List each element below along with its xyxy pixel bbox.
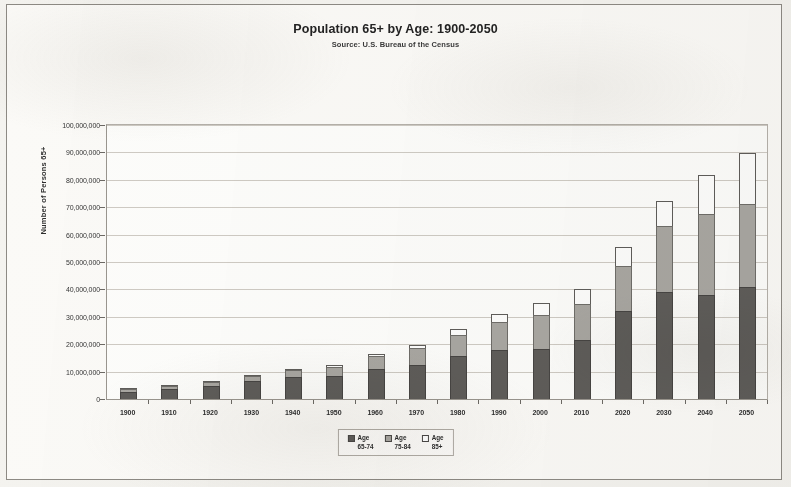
x-tick-label: 1960	[368, 409, 383, 416]
y-tick-label: 70,000,000	[22, 204, 100, 211]
x-tick-label: 2000	[533, 409, 548, 416]
x-tick-mark	[561, 400, 562, 404]
y-tick-label: 20,000,000	[22, 341, 100, 348]
bar-segment-age-75-84	[698, 214, 715, 295]
y-tick-label: 60,000,000	[22, 231, 100, 238]
bar-segment-age-75-84	[656, 226, 673, 293]
plot-area	[106, 124, 768, 400]
bar-segment-age-75-84	[533, 315, 550, 349]
legend-swatch-icon	[422, 435, 429, 442]
x-tick-mark	[726, 400, 727, 404]
bar-segment-age-75-84	[739, 204, 756, 286]
x-tick-label: 1910	[161, 409, 176, 416]
bar-segment-age-65-74	[285, 377, 302, 399]
bar-segment-age-65-74	[120, 392, 137, 399]
bar-segment-age-85	[533, 303, 550, 315]
x-tick-mark	[190, 400, 191, 404]
stacked-bar	[698, 175, 715, 399]
bar-segment-age-65-74	[409, 365, 426, 399]
x-tick-label: 2040	[698, 409, 713, 416]
stacked-bar	[285, 369, 302, 399]
x-tick-label: 1900	[120, 409, 135, 416]
x-tick-label: 2050	[739, 409, 754, 416]
x-tick-label: 1970	[409, 409, 424, 416]
bars-layer	[107, 125, 767, 399]
x-tick-mark	[272, 400, 273, 404]
bar-segment-age-75-84	[326, 367, 343, 376]
legend-label: Age65-74	[357, 434, 373, 451]
x-tick-mark	[643, 400, 644, 404]
x-tick-label: 1930	[244, 409, 259, 416]
bar-segment-age-85	[739, 153, 756, 205]
chart-legend: Age65-74Age75-84Age85+	[337, 429, 453, 456]
bar-segment-age-75-84	[491, 322, 508, 349]
y-tick-mark	[100, 262, 105, 263]
x-tick-label: 1950	[326, 409, 341, 416]
legend-item: Age75-84	[385, 434, 411, 451]
legend-swatch-icon	[347, 435, 354, 442]
population-chart: Population 65+ by Age: 1900-2050 Source:…	[0, 0, 791, 487]
y-tick-label: 10,000,000	[22, 368, 100, 375]
bar-segment-age-65-74	[533, 349, 550, 399]
y-tick-mark	[100, 235, 105, 236]
stacked-bar	[615, 247, 632, 399]
y-tick-label: 50,000,000	[22, 259, 100, 266]
bar-segment-age-85	[491, 314, 508, 322]
bar-segment-age-75-84	[285, 370, 302, 377]
x-tick-label: 1920	[203, 409, 218, 416]
stacked-bar	[120, 388, 137, 399]
stacked-bar	[739, 153, 756, 399]
stacked-bar	[450, 329, 467, 399]
x-tick-mark	[767, 400, 768, 404]
x-tick-label: 1980	[450, 409, 465, 416]
x-tick-mark	[355, 400, 356, 404]
y-tick-mark	[100, 317, 105, 318]
x-tick-mark	[685, 400, 686, 404]
x-tick-label: 1990	[491, 409, 506, 416]
x-tick-label: 2010	[574, 409, 589, 416]
y-tick-mark	[100, 399, 105, 400]
bar-segment-age-65-74	[244, 381, 261, 399]
x-tick-mark	[520, 400, 521, 404]
legend-swatch-icon	[385, 435, 392, 442]
chart-source-subtitle: Source: U.S. Bureau of the Census	[0, 40, 791, 49]
x-tick-mark	[396, 400, 397, 404]
stacked-bar	[203, 381, 220, 399]
bar-segment-age-65-74	[491, 350, 508, 399]
bar-segment-age-75-84	[450, 335, 467, 356]
chart-title: Population 65+ by Age: 1900-2050	[0, 22, 791, 36]
stacked-bar	[326, 365, 343, 399]
x-tick-mark	[602, 400, 603, 404]
x-tick-mark	[148, 400, 149, 404]
stacked-bar	[574, 289, 591, 399]
bar-segment-age-75-84	[574, 304, 591, 339]
y-tick-mark	[100, 344, 105, 345]
legend-label: Age85+	[432, 434, 444, 451]
x-tick-label: 2030	[656, 409, 671, 416]
stacked-bar	[161, 385, 178, 399]
y-tick-mark	[100, 372, 105, 373]
stacked-bar	[409, 345, 426, 400]
y-tick-label: 100,000,000	[22, 122, 100, 129]
bar-segment-age-65-74	[203, 386, 220, 399]
legend-item: Age65-74	[347, 434, 373, 451]
y-tick-mark	[100, 125, 105, 126]
bar-segment-age-65-74	[450, 356, 467, 399]
bar-segment-age-65-74	[326, 376, 343, 399]
x-axis-ticks: 1900191019201930194019501960197019801990…	[106, 400, 768, 428]
bar-segment-age-65-74	[574, 340, 591, 399]
x-tick-mark	[313, 400, 314, 404]
stacked-bar	[244, 375, 261, 399]
bar-segment-age-65-74	[368, 369, 385, 399]
x-tick-label: 2020	[615, 409, 630, 416]
y-axis-ticks: 010,000,00020,000,00030,000,00040,000,00…	[20, 124, 100, 400]
y-tick-label: 30,000,000	[22, 313, 100, 320]
y-tick-mark	[100, 152, 105, 153]
legend-label: Age75-84	[395, 434, 411, 451]
stacked-bar	[491, 314, 508, 399]
bar-segment-age-75-84	[615, 266, 632, 311]
x-tick-mark	[231, 400, 232, 404]
bar-segment-age-65-74	[698, 295, 715, 399]
y-tick-label: 80,000,000	[22, 176, 100, 183]
stacked-bar	[533, 303, 550, 399]
